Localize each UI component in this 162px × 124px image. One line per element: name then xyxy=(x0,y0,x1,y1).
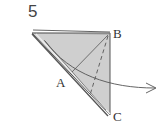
point-label-a: A xyxy=(56,76,65,89)
point-label-b: B xyxy=(113,27,122,40)
point-label-c: C xyxy=(113,110,122,123)
top-edge-layer xyxy=(33,30,110,32)
origami-fold-diagram xyxy=(0,0,162,124)
